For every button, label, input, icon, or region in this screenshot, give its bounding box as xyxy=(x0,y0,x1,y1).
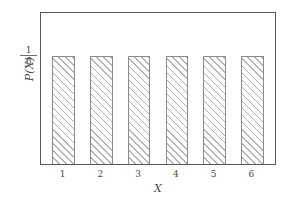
x-axis-tick-label: 5 xyxy=(201,168,227,180)
bar xyxy=(241,56,264,164)
bar xyxy=(203,56,226,164)
bars-layer xyxy=(41,13,275,164)
bar xyxy=(166,56,189,164)
bar xyxy=(90,56,113,164)
y-axis-tick-label-one-sixth: 1 6 xyxy=(20,45,37,66)
x-axis-label: X xyxy=(40,182,276,195)
x-axis-tick-label: 6 xyxy=(238,168,264,180)
probability-distribution-chart: P(X) 1 6 123456 X xyxy=(0,0,286,200)
plot-area xyxy=(40,12,276,165)
bar xyxy=(52,56,75,164)
fraction-numerator: 1 xyxy=(20,45,37,56)
x-axis-tick-label: 2 xyxy=(87,168,113,180)
x-axis-tick-label: 1 xyxy=(50,168,76,180)
bar xyxy=(128,56,151,164)
x-axis-tick-label: 4 xyxy=(163,168,189,180)
x-axis-tick-labels: 123456 xyxy=(40,168,276,182)
x-axis-tick-label: 3 xyxy=(125,168,151,180)
fraction-denominator: 6 xyxy=(20,56,37,66)
